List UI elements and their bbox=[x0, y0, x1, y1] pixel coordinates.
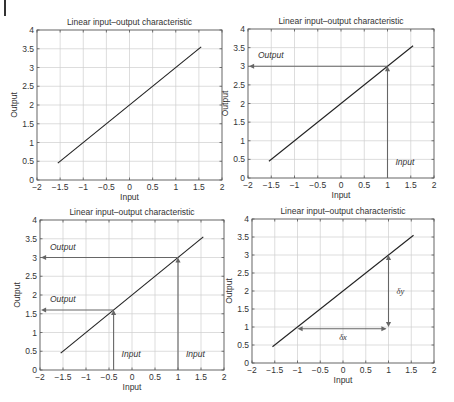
delta-y-label: δy bbox=[397, 286, 405, 296]
x-tick-label: 1 bbox=[386, 365, 391, 375]
y-axis-label: Output bbox=[224, 278, 234, 304]
x-tick-label: 2 bbox=[432, 365, 437, 375]
y-tick-label: 3.5 bbox=[237, 232, 249, 242]
arrowhead-icon bbox=[386, 322, 391, 327]
x-tick-label: −0.5 bbox=[312, 365, 329, 375]
y-tick-label: 0.5 bbox=[237, 340, 249, 350]
delta-x-label: δx bbox=[339, 332, 347, 342]
plot-area: −2−1.5−1−0.500.511.5200.511.522.533.54Li… bbox=[224, 206, 437, 385]
y-tick-label: 4 bbox=[244, 214, 249, 224]
y-tick-label: 1.5 bbox=[237, 304, 249, 314]
y-tick-label: 2 bbox=[244, 286, 249, 296]
x-tick-label: 0 bbox=[341, 365, 346, 375]
x-tick-label: 1.5 bbox=[405, 365, 417, 375]
x-axis-label: Input bbox=[334, 375, 354, 385]
x-tick-label: 0.5 bbox=[360, 365, 372, 375]
y-tick-label: 3 bbox=[244, 250, 249, 260]
x-tick-label: −1.5 bbox=[266, 365, 283, 375]
x-tick-label: −1 bbox=[293, 365, 303, 375]
y-tick-label: 0 bbox=[244, 358, 249, 368]
y-tick-label: 2.5 bbox=[237, 268, 249, 278]
y-tick-label: 1 bbox=[244, 322, 249, 332]
chart-panel-bottom-right: −2−1.5−1−0.500.511.5200.511.522.533.54Li… bbox=[0, 0, 454, 402]
chart-title: Linear input–output characteristic bbox=[280, 206, 406, 216]
